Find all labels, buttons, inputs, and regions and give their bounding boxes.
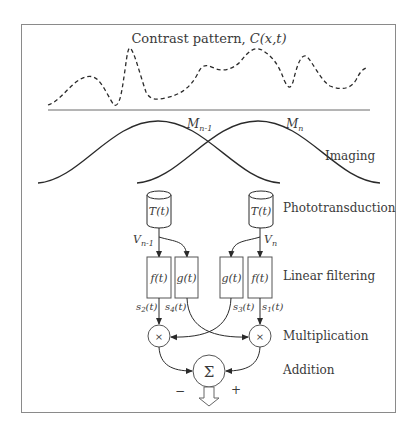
voltage-label-right: Vn xyxy=(264,233,277,248)
svg-text:Σ: Σ xyxy=(204,363,215,381)
stage-label-linear-filtering: Linear filtering xyxy=(283,269,375,283)
title: Contrast pattern, C(x,t) xyxy=(131,31,286,46)
filter-f-right: f(t) xyxy=(248,257,272,298)
svg-text:f(t): f(t) xyxy=(250,272,268,285)
transducer-left: T(t) xyxy=(147,191,171,228)
signal-label-s3: s3(t) xyxy=(233,301,255,314)
svg-text:f(t): f(t) xyxy=(149,272,167,285)
voltage-label-left: Vn-1 xyxy=(133,233,154,248)
stage-label-imaging: Imaging xyxy=(325,149,376,163)
multiplier-left: × xyxy=(148,325,170,347)
stage-label-multiplication: Multiplication xyxy=(283,329,369,343)
svg-text:g(t): g(t) xyxy=(176,272,196,285)
svg-text:g(t): g(t) xyxy=(221,272,241,285)
svg-text:T(t): T(t) xyxy=(251,205,271,218)
minus-sign: − xyxy=(175,384,185,398)
summation-node: Σ xyxy=(193,355,225,387)
stage-label-phototransduction: Phototransduction xyxy=(283,201,396,215)
multiplier-right: × xyxy=(249,325,271,347)
filter-f-left: f(t) xyxy=(147,257,171,298)
filter-g-left: g(t) xyxy=(175,257,198,298)
model-diagram: Contrast pattern, C(x,t) Mn-1 Mn Imaging… xyxy=(0,0,412,429)
transducer-right: T(t) xyxy=(249,191,273,228)
contrast-pattern-curve xyxy=(48,48,366,105)
stage-label-addition: Addition xyxy=(282,363,335,377)
filter-g-right: g(t) xyxy=(220,257,243,298)
plus-sign: + xyxy=(231,383,241,397)
receptor-curve-left xyxy=(38,121,280,183)
signal-label-s4: s4(t) xyxy=(165,301,187,314)
receptor-label-right: Mn xyxy=(285,117,303,133)
svg-text:×: × xyxy=(256,331,264,342)
output-arrow-icon xyxy=(199,387,219,406)
svg-text:T(t): T(t) xyxy=(149,205,169,218)
signal-label-s2: s2(t) xyxy=(136,301,158,314)
signal-label-s1: s1(t) xyxy=(262,301,284,314)
svg-text:×: × xyxy=(155,331,163,342)
receptor-label-left: Mn-1 xyxy=(186,117,212,133)
